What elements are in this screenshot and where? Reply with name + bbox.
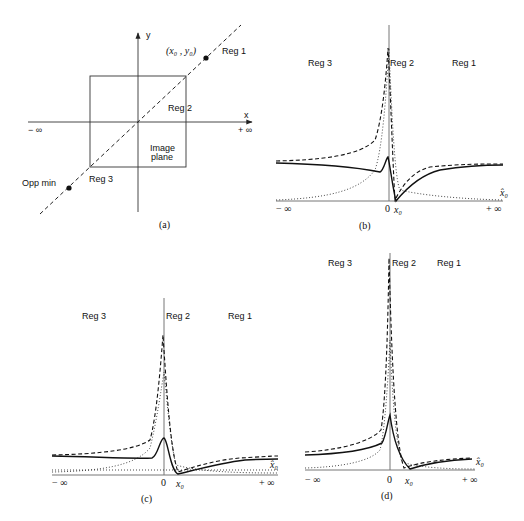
reg1-label: Reg 1 bbox=[222, 46, 246, 56]
reg1-label: Reg 1 bbox=[452, 58, 476, 68]
x0-hat-axis-label: x̂₀ bbox=[499, 187, 508, 198]
neg-inf-label: − ∞ bbox=[305, 474, 320, 485]
reg1-label: Reg 1 bbox=[437, 258, 461, 268]
pos-inf-label: + ∞ bbox=[462, 474, 477, 485]
series-dashed bbox=[52, 335, 278, 472]
point-label: (x₀ , y₀) bbox=[166, 45, 197, 57]
neg-inf-label: − ∞ bbox=[276, 203, 291, 214]
reg3-label: Reg 3 bbox=[308, 58, 332, 68]
reg1-label: Reg 1 bbox=[228, 311, 252, 321]
reg2-label: Reg 2 bbox=[392, 258, 416, 268]
reg3-label: Reg 3 bbox=[328, 258, 352, 268]
opp-min-label: Opp min bbox=[22, 178, 56, 188]
x0-tick: x₀ bbox=[393, 204, 402, 215]
series-solid bbox=[52, 438, 278, 474]
reg3-label: Reg 3 bbox=[82, 311, 106, 321]
x-axis-label: x bbox=[244, 110, 249, 120]
reg2-label: Reg 2 bbox=[390, 58, 414, 68]
zero-tick: 0 bbox=[387, 474, 392, 485]
dashed-diagonal bbox=[40, 25, 241, 214]
opp-min-point bbox=[66, 185, 71, 190]
point-x0-y0 bbox=[203, 55, 208, 60]
pos-inf-label: + ∞ bbox=[259, 477, 274, 488]
x0-hat-axis-label: x̂₀ bbox=[475, 456, 484, 467]
pos-inf-label: + ∞ bbox=[486, 203, 501, 214]
x0-tick: x₀ bbox=[404, 475, 413, 486]
panel-c-chart: Reg 3 Reg 2 Reg 1 − ∞ + ∞ 0 x₀ x̂₀ (c) bbox=[52, 298, 278, 505]
image-plane-label-2: plane bbox=[151, 152, 173, 162]
caption-d: (d) bbox=[381, 490, 393, 502]
x0-hat-axis-label: x̂₀ bbox=[269, 459, 278, 470]
caption-b: (b) bbox=[359, 220, 371, 232]
zero-tick: 0 bbox=[161, 477, 166, 488]
zero-tick: 0 bbox=[385, 203, 390, 214]
caption-c: (c) bbox=[141, 493, 152, 505]
x0-tick: x₀ bbox=[175, 478, 184, 489]
y-axis-label: y bbox=[146, 30, 151, 40]
neg-inf-label: − ∞ bbox=[52, 477, 67, 488]
neg-inf-label: − ∞ bbox=[28, 125, 42, 135]
reg3-label: Reg 3 bbox=[89, 174, 113, 184]
figure: y x − ∞ + ∞ (x₀ , y₀) Reg 1 Reg 2 Reg 3 … bbox=[0, 0, 524, 521]
series-dashed bbox=[305, 258, 472, 468]
panel-b-chart: Reg 3 Reg 2 Reg 1 − ∞ + ∞ 0 x₀ x̂₀ (b) bbox=[276, 25, 508, 232]
caption-a: (a) bbox=[159, 219, 170, 231]
pos-inf-label: + ∞ bbox=[238, 125, 252, 135]
reg2-label: Reg 2 bbox=[168, 103, 192, 113]
panel-a-diagram: y x − ∞ + ∞ (x₀ , y₀) Reg 1 Reg 2 Reg 3 … bbox=[22, 25, 252, 231]
series-solid bbox=[305, 415, 472, 469]
reg2-label: Reg 2 bbox=[166, 311, 190, 321]
panel-d-chart: Reg 3 Reg 2 Reg 1 − ∞ + ∞ 0 x₀ x̂₀ (d) bbox=[305, 253, 484, 502]
